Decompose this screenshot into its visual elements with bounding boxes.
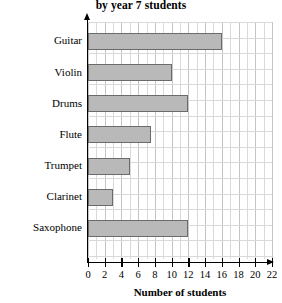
bar-flute <box>88 126 151 143</box>
category-label-flute: Flute <box>2 128 86 140</box>
bar-row <box>88 220 272 237</box>
x-tick <box>222 258 223 267</box>
bars-group <box>88 22 272 259</box>
chart-title: by year 7 students <box>0 0 282 11</box>
category-label-group: GuitarViolinDrumsFluteTrumpetClarinetSax… <box>0 22 86 259</box>
x-tick-label: 12 <box>179 269 197 280</box>
x-tick <box>272 258 273 267</box>
x-tick-label: 22 <box>263 269 281 280</box>
category-label-drums: Drums <box>2 97 86 109</box>
bar-clarinet <box>88 189 113 206</box>
x-tick-label: 0 <box>79 269 97 280</box>
category-label-violin: Violin <box>2 66 86 78</box>
x-tick <box>88 258 89 267</box>
bar-row <box>88 33 272 50</box>
x-tick-label: 20 <box>246 269 264 280</box>
x-tick <box>155 258 156 267</box>
x-tick-label: 14 <box>196 269 214 280</box>
chart-title-text: by year 7 students <box>96 0 187 11</box>
x-tick <box>188 258 189 267</box>
bar-row <box>88 95 272 112</box>
y-axis-line <box>87 18 88 263</box>
bar-saxophone <box>88 220 188 237</box>
x-tick <box>105 258 106 267</box>
y-axis-arrow-icon <box>84 13 90 20</box>
bar-row <box>88 126 272 143</box>
bar-guitar <box>88 33 222 50</box>
bar-chart-figure: by year 7 students Musical instrument Gu… <box>0 0 282 303</box>
x-tick <box>205 258 206 267</box>
x-tick-label: 18 <box>230 269 248 280</box>
category-label-guitar: Guitar <box>2 34 86 46</box>
bar-violin <box>88 64 172 81</box>
bar-row <box>88 158 272 175</box>
category-label-saxophone: Saxophone <box>2 221 86 233</box>
bar-row <box>88 189 272 206</box>
x-axis-title: Number of students <box>88 286 272 298</box>
plot-area <box>88 22 272 259</box>
x-tick-label: 16 <box>213 269 231 280</box>
category-label-trumpet: Trumpet <box>2 159 86 171</box>
category-label-clarinet: Clarinet <box>2 190 86 202</box>
x-tick <box>121 258 122 267</box>
bar-trumpet <box>88 158 130 175</box>
x-axis-line <box>87 262 269 263</box>
x-tick <box>239 258 240 267</box>
bar-drums <box>88 95 188 112</box>
x-tick-label: 6 <box>129 269 147 280</box>
x-tick-label: 4 <box>112 269 130 280</box>
x-tick <box>172 258 173 267</box>
x-tick-label: 10 <box>163 269 181 280</box>
gridline-vertical <box>272 22 273 259</box>
x-tick <box>138 258 139 267</box>
x-tick-label: 8 <box>146 269 164 280</box>
x-tick-label: 2 <box>96 269 114 280</box>
bar-row <box>88 64 272 81</box>
x-tick <box>255 258 256 267</box>
